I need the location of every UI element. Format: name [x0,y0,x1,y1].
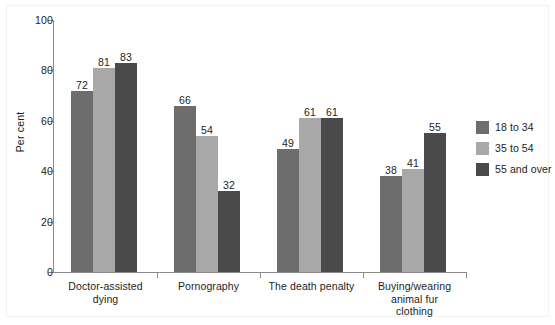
x-category-label-the-death-penalty: The death penalty [260,280,363,293]
bar-value-label: 61 [304,106,316,118]
legend-label: 18 to 34 [495,121,534,133]
bar-value-label: 32 [223,179,235,191]
bar-value-label: 72 [76,79,88,91]
legend-swatch-icon [476,163,489,176]
bar-rect [93,68,115,272]
bar-rect [321,118,343,272]
bar-value-label: 55 [429,121,441,133]
bar-55-and-over[interactable]: 32 [218,20,240,272]
x-group-separator [260,272,261,278]
bar-value-label: 66 [179,94,191,106]
bar-55-and-over[interactable]: 55 [424,20,446,272]
bar-18-to-34[interactable]: 72 [71,20,93,272]
legend-swatch-icon [476,142,489,155]
x-group-separator [363,272,364,278]
x-category-line: Buying/wearing [363,280,466,293]
bar-18-to-34[interactable]: 38 [380,20,402,272]
x-category-line: The death penalty [260,280,363,293]
bar-group-pornography: 66 54 32 [174,20,240,272]
bar-rect [299,118,321,272]
y-tick-label: 20 [19,216,53,228]
x-category-line: Doctor-assisted [54,280,157,293]
bar-18-to-34[interactable]: 49 [277,20,299,272]
bar-35-to-54[interactable]: 81 [93,20,115,272]
x-category-label-pornography: Pornography [157,280,260,293]
x-category-label-buying-wearing-animal-fur-clothing: Buying/wearing animal fur clothing [363,280,466,318]
legend-item-55-and-over[interactable]: 55 and over [476,160,552,178]
x-category-line: Pornography [157,280,260,293]
y-tick-label: 100 [19,14,53,26]
y-axis-title: Per cent [14,97,26,167]
bar-value-label: 38 [385,164,397,176]
bar-rect [277,149,299,273]
bar-35-to-54[interactable]: 41 [402,20,424,272]
x-category-label-doctor-assisted-dying: Doctor-assisted dying [54,280,157,305]
x-group-separator [466,272,467,278]
bar-rect [115,63,137,272]
bar-value-label: 54 [201,124,213,136]
legend-item-18-to-34[interactable]: 18 to 34 [476,118,552,136]
chart-container: Per cent 100 80 60 40 20 0 [0,0,555,325]
y-tick-label: 0 [19,266,53,278]
legend-label: 55 and over [495,163,552,175]
bar-35-to-54[interactable]: 61 [299,20,321,272]
y-axis-line [53,20,54,272]
legend-swatch-icon [476,121,489,134]
bar-group-buying-wearing-animal-fur-clothing: 38 41 55 [380,20,446,272]
bar-group-doctor-assisted-dying: 72 81 83 [71,20,137,272]
bar-value-label: 41 [407,157,419,169]
x-group-separator [157,272,158,278]
bar-rect [380,176,402,272]
x-category-line: animal fur [363,293,466,306]
bar-18-to-34[interactable]: 66 [174,20,196,272]
bar-rect [196,136,218,272]
legend-item-35-to-54[interactable]: 35 to 54 [476,139,552,157]
bar-35-to-54[interactable]: 54 [196,20,218,272]
x-category-line: dying [54,293,157,306]
chart-legend: 18 to 34 35 to 54 55 and over [476,118,552,181]
bar-55-and-over[interactable]: 61 [321,20,343,272]
bar-rect [218,191,240,272]
bar-rect [424,133,446,272]
x-category-line: clothing [363,305,466,318]
bar-55-and-over[interactable]: 83 [115,20,137,272]
bar-group-the-death-penalty: 49 61 61 [277,20,343,272]
bar-value-label: 49 [282,137,294,149]
bar-rect [174,106,196,272]
bar-value-label: 83 [120,51,132,63]
bar-rect [71,91,93,272]
y-tick-label: 80 [19,64,53,76]
bar-rect [402,169,424,272]
chart-plot-area: Per cent 100 80 60 40 20 0 [6,5,549,317]
legend-label: 35 to 54 [495,142,534,154]
y-tick-label: 40 [19,165,53,177]
y-tick-label: 60 [19,115,53,127]
bar-value-label: 81 [98,56,110,68]
bar-value-label: 61 [326,106,338,118]
